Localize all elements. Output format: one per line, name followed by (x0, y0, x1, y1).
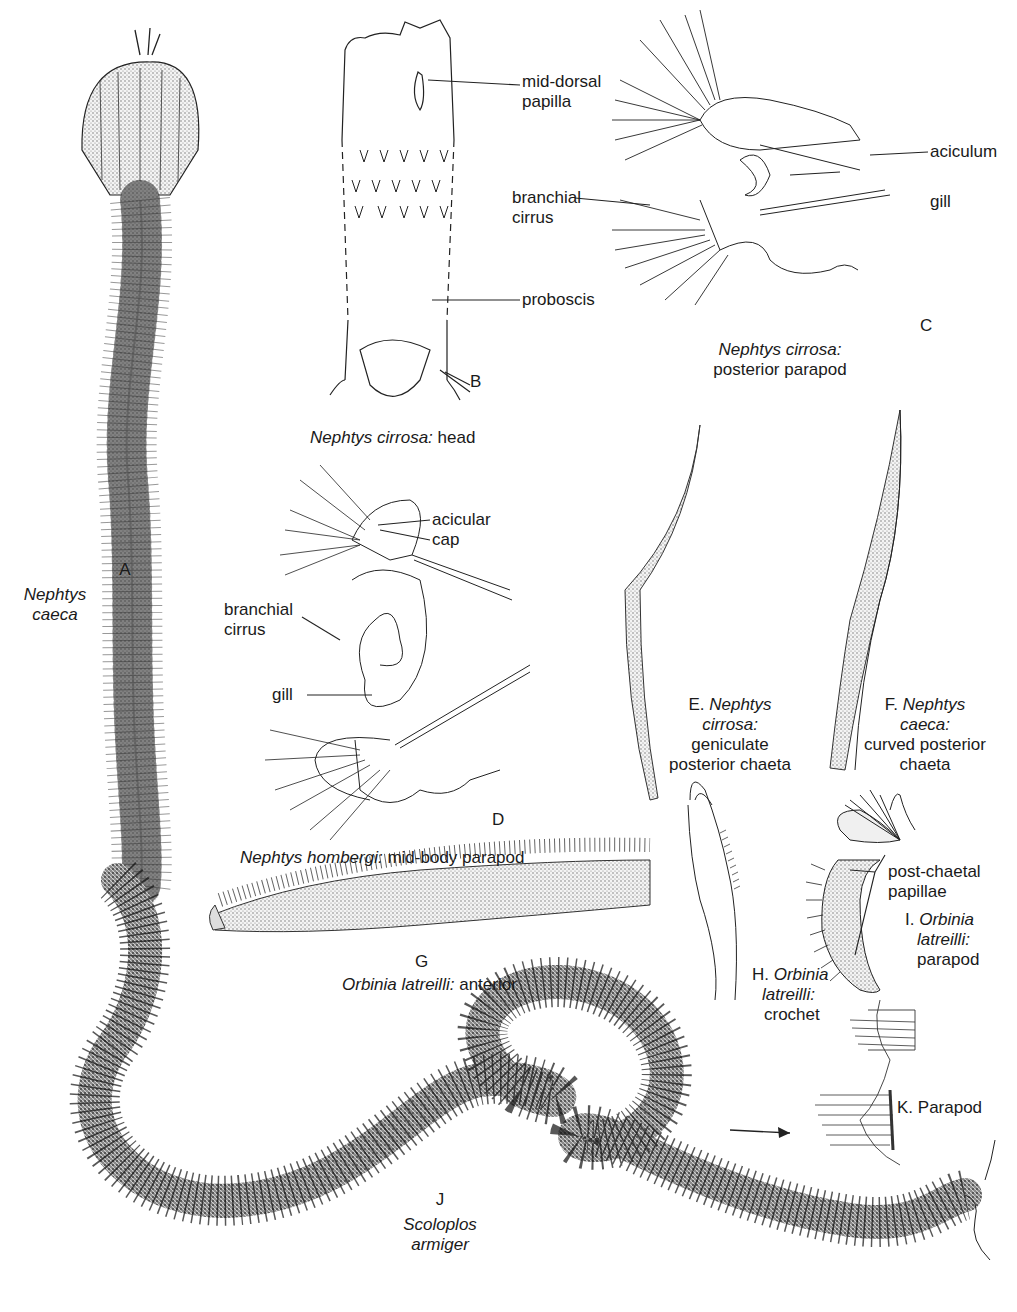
figure-letter-d: D (492, 810, 504, 830)
caption-f-species-2: caeca: (855, 715, 995, 735)
caption-h-prefix: H. (752, 965, 769, 984)
figure-letter-g: G (415, 952, 428, 972)
callout-aciculum: aciculum (930, 142, 997, 162)
callout-branchial-c-1: branchial (512, 188, 581, 208)
caption-i-desc-1: parapod (905, 950, 979, 970)
caption-g: Orbinia latreilli: anterior (342, 975, 517, 995)
caption-f: F. Nephtys caeca: curved posterior chaet… (855, 695, 995, 775)
caption-e-prefix: E. (688, 695, 704, 714)
caption-g-part: anterior (459, 975, 517, 994)
caption-e: E. Nephtys cirrosa: geniculate posterior… (655, 695, 805, 775)
caption-k-prefix: K. (897, 1098, 913, 1117)
figure-letter-c: C (920, 316, 932, 336)
caption-c-species: Nephtys cirrosa: (680, 340, 880, 360)
caption-d-part: mid-body parapod (387, 848, 524, 867)
drawing-c-parapod (575, 10, 928, 305)
caption-i-species-1: Orbinia (919, 910, 974, 929)
caption-c-part: posterior parapod (680, 360, 880, 380)
figure-letter-b: B (470, 372, 481, 392)
caption-i-prefix: I. (905, 910, 914, 929)
callout-mid-dorsal-1: mid-dorsal (522, 72, 601, 92)
callout-post-chaetal-2: papillae (888, 882, 947, 902)
callout-branchial-d-1: branchial (224, 600, 293, 620)
caption-f-prefix: F. (885, 695, 898, 714)
caption-h-species-1: Orbinia (774, 965, 829, 984)
callout-proboscis: proboscis (522, 290, 595, 310)
worm-a-nephtys-caeca (82, 28, 199, 890)
drawings-layer (0, 0, 1017, 1312)
figure-letter-a: A (110, 560, 140, 580)
callout-mid-dorsal-2: papilla (522, 92, 571, 112)
caption-f-species-1: Nephtys (903, 695, 965, 714)
caption-b-species: Nephtys cirrosa: (310, 428, 433, 447)
drawing-h-crochet (688, 782, 740, 1000)
callout-acicular-1: acicular (432, 510, 491, 530)
callout-acicular-2: cap (432, 530, 459, 550)
drawing-b-proboscis (330, 20, 520, 400)
caption-h-species-2: latreilli: (752, 985, 829, 1005)
caption-h: H. Orbinia latreilli: crochet (752, 965, 829, 1025)
callout-branchial-d-2: cirrus (224, 620, 266, 640)
callout-gill-d: gill (272, 685, 293, 705)
callout-branchial-c-2: cirrus (512, 208, 554, 228)
drawing-k-parapod (815, 1000, 915, 1165)
caption-k-desc: Parapod (918, 1098, 982, 1117)
illustration-plate: A Nephtys caeca mid-dorsal papilla probo… (0, 0, 1017, 1312)
caption-i: I. Orbinia latreilli: parapod (905, 910, 979, 970)
figure-letter-j: J (420, 1190, 460, 1210)
caption-e-desc-2: posterior chaeta (655, 755, 805, 775)
caption-b: Nephtys cirrosa: head (310, 428, 475, 448)
caption-e-species-1: Nephtys (709, 695, 771, 714)
species-a-line1: Nephtys (20, 585, 90, 605)
caption-c: Nephtys cirrosa: posterior parapod (680, 340, 880, 380)
caption-e-desc-1: geniculate (655, 735, 805, 755)
caption-d-species: Nephtys hombergi: (240, 848, 383, 867)
species-a-line2: caeca (20, 605, 90, 625)
caption-k: K. Parapod (897, 1098, 982, 1118)
caption-h-desc-1: crochet (752, 1005, 829, 1025)
caption-f-desc-2: chaeta (855, 755, 995, 775)
caption-g-species: Orbinia latreilli: (342, 975, 454, 994)
caption-d: Nephtys hombergi: mid-body parapod (240, 848, 524, 868)
species-j-line2: armiger (390, 1235, 490, 1255)
caption-i-species-2: latreilli: (905, 930, 979, 950)
caption-f-desc-1: curved posterior (855, 735, 995, 755)
caption-e-species-2: cirrosa: (655, 715, 805, 735)
species-j-line1: Scoloplos (390, 1215, 490, 1235)
callout-gill-c: gill (930, 192, 951, 212)
caption-b-part: head (438, 428, 476, 447)
callout-post-chaetal-1: post-chaetal (888, 862, 981, 882)
